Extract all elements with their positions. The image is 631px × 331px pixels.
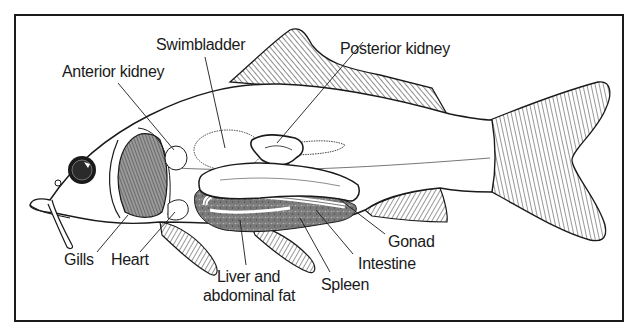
fish-illustration (0, 0, 631, 331)
label-gonad: Gonad (388, 233, 435, 250)
label-intestine: Intestine (358, 255, 416, 272)
tail-fin (490, 82, 610, 241)
label-heart: Heart (111, 251, 149, 268)
label-posterior-kidney: Posterior kidney (340, 40, 450, 57)
fish-anatomy-diagram: Swimbladder Anterior kidney Posterior ki… (0, 0, 631, 331)
label-liver-line1: Liver and (217, 268, 280, 285)
label-spleen: Spleen (321, 276, 369, 293)
label-liver-line2: abdominal fat (203, 287, 295, 304)
label-gills: Gills (64, 251, 94, 268)
anterior-kidney-organ (165, 146, 187, 170)
pectoral-fin (160, 222, 217, 275)
eye (55, 156, 96, 186)
label-swimbladder: Swimbladder (156, 36, 245, 53)
label-anterior-kidney: Anterior kidney (62, 63, 164, 80)
